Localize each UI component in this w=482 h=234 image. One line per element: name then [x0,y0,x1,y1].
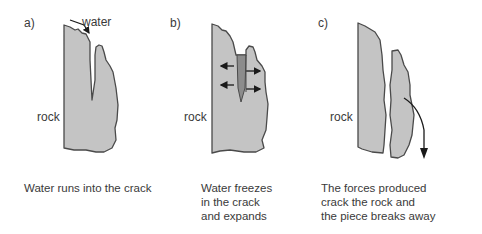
panel-c-caption: The forces produced crack the rock and t… [321,181,435,223]
panel-b-rock [212,24,268,153]
panel-a-rock [64,20,118,152]
panel-b-rock-label: rock [184,110,207,124]
panel-a-caption: Water runs into the crack [24,181,151,195]
panel-a-rock-label: rock [37,110,60,124]
panel-b-caption: Water freezes in the crack and expands [201,181,272,223]
panel-c-broken-piece [390,50,428,159]
panel-c-main-rock [358,23,386,153]
water-label: water [82,15,111,29]
panel-c-rock-label: rock [330,110,353,124]
